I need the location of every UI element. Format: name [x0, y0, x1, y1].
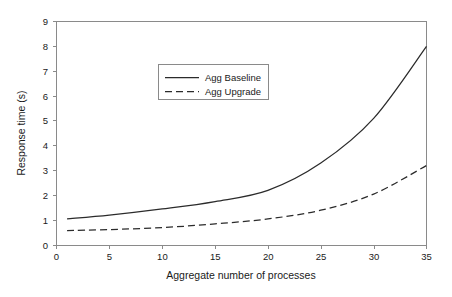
y-axis-title: Response time (s) — [15, 90, 27, 175]
chart-figure: 0 1 2 3 4 5 6 7 8 9 0 5 10 — [0, 0, 452, 297]
y-tick-label-3: 3 — [43, 165, 48, 176]
x-tick-group — [57, 245, 427, 249]
y-tick-label-8: 8 — [43, 41, 48, 52]
plot-frame — [57, 22, 427, 246]
y-axis: 0 1 2 3 4 5 6 7 8 9 — [43, 16, 57, 251]
y-tick-label-2: 2 — [43, 190, 48, 201]
x-tick-label-25: 25 — [316, 251, 327, 262]
x-tick-label-10: 10 — [157, 251, 168, 262]
y-tick-label-0: 0 — [43, 240, 48, 251]
x-axis: 0 5 10 15 20 25 30 35 — [54, 245, 432, 262]
y-tick-label-1: 1 — [43, 215, 48, 226]
x-tick-label-35: 35 — [421, 251, 432, 262]
series-line-agg-upgrade — [67, 166, 426, 231]
x-tick-label-15: 15 — [210, 251, 221, 262]
x-axis-title: Aggregate number of processes — [166, 269, 315, 281]
y-tick-group — [53, 22, 57, 246]
x-tick-label-20: 20 — [263, 251, 274, 262]
y-tick-label-6: 6 — [43, 91, 48, 102]
x-tick-label-5: 5 — [107, 251, 112, 262]
x-tick-label-0: 0 — [54, 251, 59, 262]
y-tick-label-7: 7 — [43, 66, 48, 77]
y-tick-label-5: 5 — [43, 115, 48, 126]
y-tick-label-9: 9 — [43, 16, 48, 27]
legend: Agg Baseline Agg Upgrade — [159, 65, 269, 100]
response-time-line-chart: 0 1 2 3 4 5 6 7 8 9 0 5 10 — [0, 0, 452, 297]
legend-label-agg-upgrade: Agg Upgrade — [205, 86, 261, 97]
x-tick-label-30: 30 — [369, 251, 380, 262]
y-tick-label-4: 4 — [43, 140, 48, 151]
legend-label-agg-baseline: Agg Baseline — [205, 72, 261, 83]
